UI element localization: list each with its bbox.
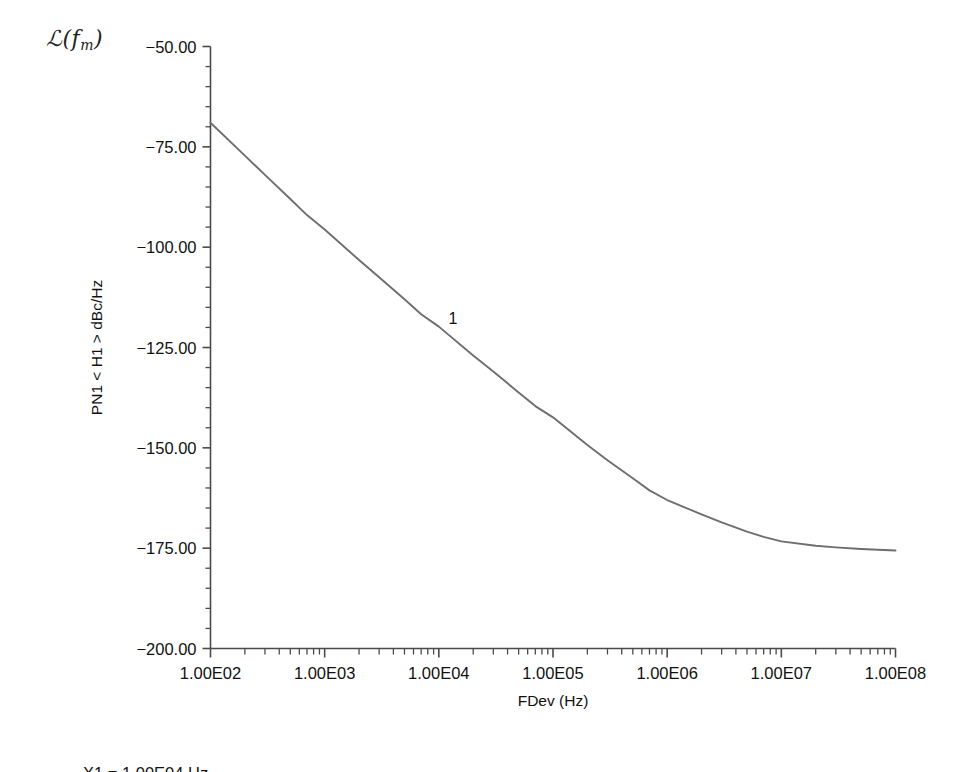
y-tick-label: −75.00	[146, 138, 197, 156]
fm-subscript-glyph: m	[80, 37, 94, 53]
data-series-line	[211, 123, 896, 551]
x-tick-label: 1.00E08	[865, 664, 926, 682]
plot-canvas: −50.00−75.00−100.00−125.00−150.00−175.00…	[0, 0, 962, 772]
y-tick-label: −150.00	[136, 439, 196, 457]
phase-noise-figure: ℒ(fm) −50.00−75.00−100.00−125.00−150.00−…	[0, 0, 962, 772]
x-tick-label: 1.00E05	[522, 664, 583, 682]
paren-close-glyph: )	[94, 26, 103, 51]
y-tick-label: −125.00	[136, 339, 196, 357]
phase-noise-symbol: ℒ(fm)	[46, 26, 103, 53]
x-tick-label: 1.00E02	[180, 664, 241, 682]
x-axis-title: FDev (Hz)	[518, 692, 589, 709]
marker-readout-x: X1 = 1.00E04 Hz	[83, 762, 240, 772]
curve-marker-label[interactable]: 1	[448, 310, 457, 327]
marker-readout: X1 = 1.00E04 Hz Y1 = −124.51 dBc/Hz	[83, 718, 240, 772]
y-tick-label: −200.00	[136, 640, 196, 658]
y-axis-title: PN1 < H1 > dBc/Hz	[88, 280, 105, 415]
x-tick-label: 1.00E07	[751, 664, 812, 682]
x-tick-label: 1.00E06	[636, 664, 697, 682]
x-tick-label: 1.00E04	[408, 664, 469, 682]
fm-variable-glyph: f	[72, 26, 81, 51]
script-l-glyph: ℒ(	[46, 26, 72, 51]
x-tick-label: 1.00E03	[294, 664, 355, 682]
y-tick-label: −175.00	[136, 539, 196, 557]
y-tick-label: −100.00	[136, 238, 196, 256]
y-tick-label: −50.00	[146, 38, 197, 56]
